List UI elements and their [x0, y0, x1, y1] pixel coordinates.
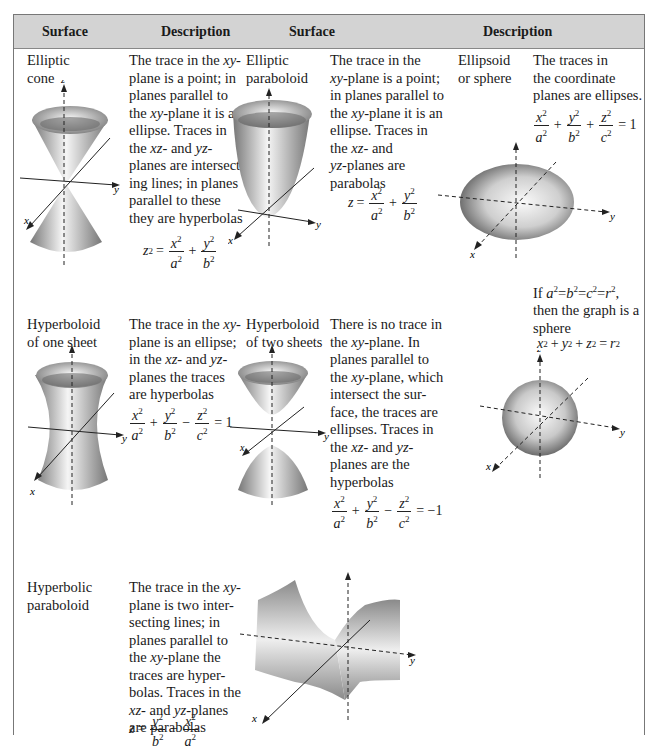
svg-text:y: y	[113, 183, 119, 195]
svg-text:x: x	[239, 442, 245, 453]
desc-line: the xy-plane the	[129, 649, 241, 667]
elliptic-cone-figure: z y x	[20, 80, 120, 270]
svg-text:x: x	[251, 712, 257, 724]
desc-line: intersect the sur-	[330, 386, 443, 404]
desc-line: the coordinate	[533, 70, 642, 88]
desc-line: planes the traces	[129, 369, 241, 387]
desc-line: plane is a point; in	[129, 70, 245, 88]
svg-text:z: z	[512, 140, 517, 142]
header-surface-2: Surface	[289, 24, 335, 40]
sphere-note: If a2=b2=c2=r2, then the graph is a sphe…	[533, 281, 639, 337]
surface-name-hyperbolic-paraboloid: Hyperbolic paraboloid	[27, 579, 92, 614]
desc-line: secting lines; in	[129, 614, 241, 632]
desc-line: planes are the	[330, 456, 443, 474]
desc-line: There is no trace in	[330, 316, 443, 334]
desc-line: The trace in the	[330, 52, 444, 70]
desc-line: yz-planes are	[330, 157, 444, 175]
equation-hyperboloid-two-sheets: x2a2 + y2b2 − z2c2 = −1	[330, 492, 446, 530]
desc-line: ellipses. Traces in	[330, 421, 443, 439]
svg-text:y: y	[315, 218, 321, 230]
desc-line: planes are ellipses.	[533, 87, 642, 105]
desc-line: The trace in the xy-	[129, 52, 245, 70]
desc-line: bolas. Traces in the	[129, 684, 241, 702]
description-hyperboloid-one-sheet: The trace in the xy- plane is an ellipse…	[129, 316, 241, 404]
desc-line: in planes parallel to	[330, 87, 444, 105]
desc-line: hyperbolas	[330, 474, 443, 492]
hyperbolic-paraboloid-figure: z y x	[240, 570, 420, 725]
svg-text:x: x	[469, 248, 475, 260]
description-hyperboloid-two-sheets: There is no trace in the xy-plane. In pl…	[330, 316, 443, 491]
equation-elliptic-paraboloid: z= x2a2 + y2b2	[348, 184, 419, 222]
svg-text:y: y	[609, 210, 615, 222]
header-surface-1: Surface	[42, 24, 88, 40]
svg-text:y: y	[619, 426, 625, 438]
header-description-1: Description	[161, 24, 230, 40]
desc-line: planes parallel to	[330, 351, 443, 369]
note-line: If a2=b2=c2=r2,	[533, 281, 639, 302]
desc-line: The traces in	[533, 52, 642, 70]
svg-text:z: z	[344, 570, 349, 572]
svg-text:y: y	[409, 654, 415, 666]
ellipsoid-figure: z y x	[438, 140, 618, 260]
svg-text:x: x	[23, 214, 29, 226]
surface-name-elliptic-paraboloid: Elliptic paraboloid	[246, 52, 308, 87]
desc-line: the xy-plane, which	[330, 369, 443, 387]
table-header: Surface Description Surface Description	[14, 15, 644, 49]
equation-ellipsoid: x2a2 + y2b2 + z2c2 = 1	[532, 106, 640, 144]
desc-line: plane is an ellipse;	[129, 334, 241, 352]
hyperboloid-two-sheets-figure: z y x	[230, 345, 330, 505]
name-line: or sphere	[458, 70, 512, 88]
desc-line: The trace in the xy-	[129, 316, 241, 334]
surface-name-ellipsoid: Ellipsoid or sphere	[458, 52, 512, 87]
header-description-2: Description	[483, 24, 552, 40]
desc-line: the xy-plane. In	[330, 334, 443, 352]
note-line: sphere	[533, 320, 639, 338]
desc-line: planes parallel to	[129, 632, 241, 650]
name-line: Elliptic	[246, 52, 308, 70]
svg-text:x: x	[485, 460, 491, 472]
desc-line: plane is two inter-	[129, 597, 241, 615]
elliptic-paraboloid-figure: z y x	[228, 88, 328, 248]
name-line: paraboloid	[246, 70, 308, 88]
description-ellipsoid: The traces in the coordinate planes are …	[533, 52, 642, 105]
equation-hyperbolic-paraboloid: z= y2b2 − x2a2	[129, 710, 200, 748]
desc-line: the xz- and yz-	[330, 439, 443, 457]
name-line: Hyperbolic	[27, 579, 92, 597]
name-line: Hyperboloid	[246, 316, 323, 334]
desc-line: face, the traces are	[330, 404, 443, 422]
desc-line: the xz- and	[330, 140, 444, 158]
note-line: then the graph is a	[533, 302, 639, 320]
desc-line: the xy-plane it is an	[330, 105, 444, 123]
name-line: Hyperboloid	[27, 316, 100, 334]
svg-text:y: y	[121, 432, 127, 444]
hyperboloid-one-sheet-figure: z y x	[28, 345, 128, 505]
name-line: Ellipsoid	[458, 52, 512, 70]
z-axis-label: z	[60, 80, 65, 85]
equation-elliptic-cone: z2= x2a2 + y2b2	[143, 232, 218, 270]
desc-line: ellipse. Traces in	[330, 122, 444, 140]
desc-line: xy-plane is a point;	[330, 70, 444, 88]
desc-line: are hyperbolas	[129, 386, 241, 404]
sphere-figure: z y x	[480, 350, 630, 480]
desc-line: The trace in the xy-	[129, 579, 241, 597]
svg-text:y: y	[323, 430, 329, 442]
svg-text:z: z	[536, 350, 541, 354]
desc-line: in the xz- and yz-	[129, 351, 241, 369]
svg-text:x: x	[29, 485, 35, 497]
svg-text:x: x	[228, 234, 233, 246]
name-line: Elliptic	[27, 52, 70, 70]
desc-line: traces are hyper-	[129, 667, 241, 685]
equation-hyperboloid-one-sheet: x2a2 + y2b2 − z2c2 = 1	[128, 404, 236, 442]
name-line: paraboloid	[27, 597, 92, 615]
description-elliptic-paraboloid: The trace in the xy-plane is a point; in…	[330, 52, 444, 192]
